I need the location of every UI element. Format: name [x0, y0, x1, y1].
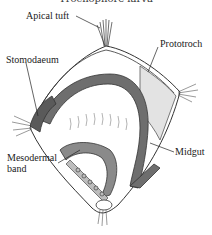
prototroch-cilia-left — [12, 116, 32, 136]
label-mesodermal-band: Mesodermal band — [7, 152, 57, 174]
telotroch — [96, 200, 112, 210]
label-stomodaeum: Stomodaeum — [6, 54, 59, 65]
label-mesodermal-line2: band — [7, 163, 57, 174]
prototroch-cilia-right — [178, 84, 198, 102]
label-midgut: Midgut — [175, 146, 204, 157]
apical-tuft-cilia — [97, 19, 112, 46]
label-apical-tuft: Apical tuft — [26, 10, 69, 21]
label-mesodermal-line1: Mesodermal — [7, 152, 57, 163]
trochophore-diagram — [0, 0, 212, 235]
label-prototroch: Prototroch — [160, 38, 202, 49]
